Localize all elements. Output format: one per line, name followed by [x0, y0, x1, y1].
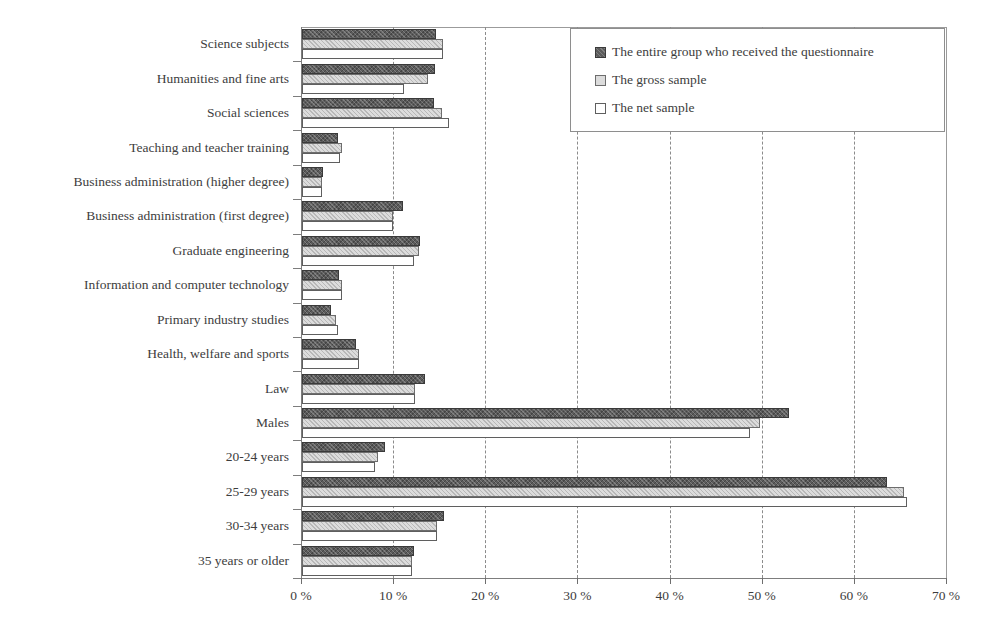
y-tick-7: [293, 303, 301, 304]
bar-s0-cat14: [302, 511, 444, 521]
bar-s0-cat13: [302, 477, 887, 487]
bar-s1-cat8: [302, 315, 336, 325]
bar-s0-cat8: [302, 305, 331, 315]
category-label-8: Primary industry studies: [157, 312, 289, 328]
bar-s0-cat6: [302, 236, 420, 246]
bar-s0-cat0: [302, 29, 436, 39]
x-tick-label-40: 40 %: [656, 588, 684, 604]
category-label-5: Business administration (first degree): [86, 208, 289, 224]
bar-s2-cat9: [302, 359, 359, 369]
bar-s0-cat10: [302, 374, 425, 384]
bar-s0-cat3: [302, 133, 338, 143]
bar-s2-cat14: [302, 531, 437, 541]
x-axis-line: [301, 578, 947, 579]
plot-border-right: [946, 27, 947, 579]
bar-s0-cat2: [302, 98, 434, 108]
x-tick-60: [854, 578, 855, 584]
category-label-3: Teaching and teacher training: [129, 140, 289, 156]
y-tick-4: [293, 199, 301, 200]
x-tick-30: [577, 578, 578, 584]
y-tick-11: [293, 440, 301, 441]
bar-s2-cat0: [302, 49, 443, 59]
chart-legend: The entire group who received the questi…: [570, 28, 945, 132]
bar-s1-cat7: [302, 280, 342, 290]
category-label-2: Social sciences: [207, 105, 289, 121]
category-label-14: 30-34 years: [226, 518, 289, 534]
y-tick-3: [293, 165, 301, 166]
x-tick-label-60: 60 %: [840, 588, 868, 604]
bar-s1-cat2: [302, 108, 442, 118]
bar-s1-cat4: [302, 177, 322, 187]
category-label-9: Health, welfare and sports: [147, 346, 289, 362]
y-tick-6: [293, 268, 301, 269]
legend-item-gross-sample: The gross sample: [595, 66, 944, 94]
y-tick-8: [293, 337, 301, 338]
y-tick-13: [293, 509, 301, 510]
bar-s1-cat11: [302, 418, 760, 428]
bar-s0-cat9: [302, 339, 356, 349]
x-tick-50: [762, 578, 763, 584]
bar-s0-cat12: [302, 442, 385, 452]
category-label-11: Males: [256, 415, 289, 431]
bar-s2-cat13: [302, 497, 907, 507]
bar-s0-cat5: [302, 201, 403, 211]
y-tick-5: [293, 234, 301, 235]
y-tick-14: [293, 544, 301, 545]
x-tick-label-10: 10 %: [379, 588, 407, 604]
bar-s0-cat7: [302, 270, 339, 280]
bar-s2-cat8: [302, 325, 338, 335]
category-label-6: Graduate engineering: [172, 243, 289, 259]
x-tick-label-30: 30 %: [563, 588, 591, 604]
category-label-4: Business administration (higher degree): [73, 174, 289, 190]
bar-s1-cat0: [302, 39, 443, 49]
category-label-0: Science subjects: [200, 36, 289, 52]
x-tick-70: [946, 578, 947, 584]
bar-s1-cat1: [302, 74, 428, 84]
bar-s0-cat15: [302, 546, 414, 556]
legend-swatch-icon-net-sample: [595, 103, 606, 114]
bar-s2-cat5: [302, 221, 393, 231]
bar-s1-cat14: [302, 521, 437, 531]
category-label-10: Law: [265, 381, 289, 397]
legend-swatch-icon-entire-group: [595, 47, 606, 58]
bar-s2-cat2: [302, 118, 449, 128]
x-tick-40: [670, 578, 671, 584]
bar-s1-cat3: [302, 143, 342, 153]
legend-label-net-sample: The net sample: [612, 100, 694, 116]
x-tick-20: [485, 578, 486, 584]
bar-s1-cat5: [302, 211, 393, 221]
y-tick-9: [293, 371, 301, 372]
bar-s1-cat12: [302, 452, 378, 462]
legend-label-gross-sample: The gross sample: [612, 72, 706, 88]
bar-s1-cat10: [302, 384, 415, 394]
bar-s0-cat11: [302, 408, 789, 418]
y-tick-1: [293, 96, 301, 97]
bar-s2-cat1: [302, 84, 404, 94]
bar-s2-cat15: [302, 566, 412, 576]
x-tick-0: [301, 578, 302, 584]
bar-s1-cat13: [302, 487, 904, 497]
legend-label-entire-group: The entire group who received the questi…: [612, 44, 874, 60]
y-tick-12: [293, 475, 301, 476]
y-tick-0: [293, 61, 301, 62]
bar-s2-cat12: [302, 462, 375, 472]
horizontal-bar-chart: 0 %10 %20 %30 %40 %50 %60 %70 % Science …: [0, 0, 993, 640]
legend-swatch-icon-gross-sample: [595, 75, 606, 86]
bar-s2-cat3: [302, 153, 340, 163]
bar-s1-cat15: [302, 556, 412, 566]
x-tick-label-20: 20 %: [471, 588, 499, 604]
category-label-12: 20-24 years: [226, 449, 289, 465]
x-tick-10: [393, 578, 394, 584]
legend-item-entire-group: The entire group who received the questi…: [595, 38, 944, 66]
legend-item-net-sample: The net sample: [595, 94, 944, 122]
y-tick-15: [293, 578, 301, 579]
category-label-13: 25-29 years: [226, 484, 289, 500]
x-tick-label-50: 50 %: [748, 588, 776, 604]
bar-s2-cat6: [302, 256, 414, 266]
x-tick-label-0: 0 %: [290, 588, 311, 604]
bar-s2-cat4: [302, 187, 322, 197]
bar-s1-cat9: [302, 349, 359, 359]
bar-s0-cat4: [302, 167, 323, 177]
bar-s1-cat6: [302, 246, 419, 256]
bar-s2-cat11: [302, 428, 750, 438]
